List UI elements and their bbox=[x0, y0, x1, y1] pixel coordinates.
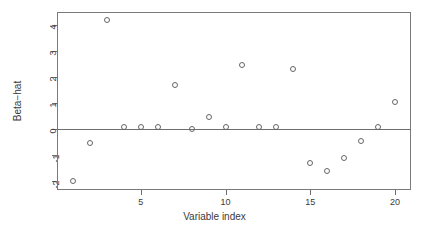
x-axis-tick bbox=[395, 190, 396, 195]
x-axis-tick-label: 10 bbox=[217, 198, 235, 207]
data-point bbox=[392, 99, 398, 105]
data-point bbox=[307, 160, 313, 166]
x-axis-tick-label: 5 bbox=[132, 198, 150, 207]
data-point bbox=[87, 140, 93, 146]
data-point bbox=[189, 126, 195, 132]
data-point bbox=[104, 17, 110, 23]
data-point bbox=[70, 178, 76, 184]
scatter-plot-figure: Beta−hat -2-101234 5101520 Variable inde… bbox=[0, 0, 429, 231]
data-point bbox=[341, 155, 347, 161]
x-axis-tick bbox=[310, 190, 311, 195]
x-axis-title: Variable index bbox=[0, 212, 429, 222]
data-point bbox=[223, 124, 229, 130]
x-axis-tick-label: 15 bbox=[301, 198, 319, 207]
data-point bbox=[155, 124, 161, 130]
x-axis-tick bbox=[226, 190, 227, 195]
data-point bbox=[290, 66, 296, 72]
zero-reference-line bbox=[57, 129, 411, 130]
data-point bbox=[172, 82, 178, 88]
y-axis-title: Beta−hat bbox=[13, 81, 23, 121]
data-point bbox=[138, 124, 144, 130]
data-point bbox=[121, 124, 127, 130]
data-point bbox=[239, 62, 245, 68]
x-axis-tick bbox=[141, 190, 142, 195]
data-point bbox=[324, 168, 330, 174]
plot-area bbox=[57, 12, 411, 190]
data-point bbox=[206, 114, 212, 120]
x-axis-tick-label: 20 bbox=[386, 198, 404, 207]
data-point bbox=[358, 138, 364, 144]
